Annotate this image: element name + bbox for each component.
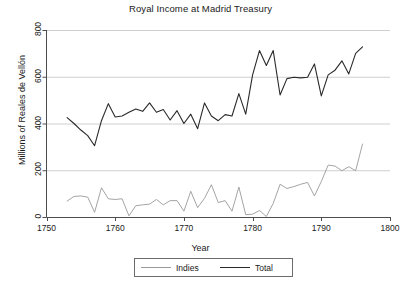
y-tick-label: 200 [33,156,43,182]
chart-figure: Royal Income at Madrid Treasury Millions… [0,0,401,290]
y-tick-label: 800 [33,16,43,42]
x-tick-label: 1780 [233,223,273,233]
x-tick-label: 1800 [370,223,401,233]
x-tick-label: 1770 [164,223,204,233]
chart-legend[interactable]: Indies Total [134,258,293,277]
data-series-layer [67,47,362,217]
gridlines [47,31,391,218]
plot-area [0,0,401,290]
legend-swatch-indies [141,267,171,268]
axis-ticks [43,31,391,222]
y-tick-label: 600 [33,63,43,89]
legend-entry-indies[interactable]: Indies [141,259,199,276]
series-line-indies [67,144,362,216]
legend-label-total: Total [255,263,273,273]
legend-swatch-total [220,267,250,268]
x-tick-label: 1790 [301,223,341,233]
legend-entry-total[interactable]: Total [220,259,273,276]
x-tick-label: 1750 [27,223,67,233]
y-tick-label: 400 [33,110,43,136]
series-line-total [67,47,362,146]
x-tick-label: 1760 [95,223,135,233]
legend-label-indies: Indies [176,263,199,273]
